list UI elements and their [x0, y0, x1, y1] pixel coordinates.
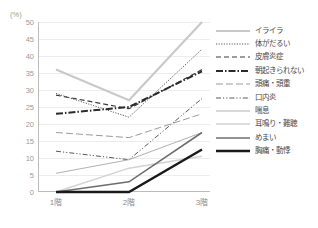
y-axis-tick-label: 50: [0, 18, 34, 27]
legend-label: 胸痛・動悸: [255, 146, 290, 156]
legend-label: 朝起きられない: [255, 66, 304, 76]
legend-label: 皮膚炎症: [255, 52, 283, 62]
series-line: [56, 49, 202, 117]
legend-label: 耳鳴り・難聴: [255, 119, 297, 129]
legend-label: 口内炎: [255, 93, 276, 103]
series-line: [56, 70, 202, 109]
y-axis-tick-label: 35: [0, 69, 34, 78]
legend-line-swatch: [216, 93, 250, 103]
x-axis-tick-label: 2階: [123, 196, 135, 207]
series-line: [56, 99, 202, 160]
legend-item[interactable]: 喘息: [216, 104, 316, 117]
legend-line-swatch: [216, 146, 250, 156]
legend-line-swatch: [216, 66, 250, 76]
legend-item[interactable]: イライラ: [216, 24, 316, 37]
x-axis-tick-label: 1階: [50, 196, 62, 207]
y-axis-tick-label: 40: [0, 52, 34, 61]
legend-item[interactable]: 頭痛・頭重: [216, 78, 316, 91]
legend-item[interactable]: 朝起きられない: [216, 64, 316, 77]
legend-line-swatch: [216, 52, 250, 62]
legend-item[interactable]: 体がだるい: [216, 37, 316, 50]
legend-item[interactable]: 口内炎: [216, 91, 316, 104]
y-axis-tick-label: 5: [0, 171, 34, 180]
y-axis-tick-label: 25: [0, 103, 34, 112]
chart-legend: イライラ体がだるい皮膚炎症朝起きられない頭痛・頭重口内炎喘息耳鳴り・難聴めまい胸…: [216, 24, 316, 158]
legend-item[interactable]: 皮膚炎症: [216, 51, 316, 64]
legend-label: 頭痛・頭重: [255, 79, 290, 89]
x-axis-tick-label: 3階: [196, 196, 208, 207]
legend-line-swatch: [216, 79, 250, 89]
y-axis-tick-label: 30: [0, 86, 34, 95]
legend-label: イライラ: [255, 26, 283, 36]
chart-lines: [38, 22, 210, 192]
chart-root: (%) 05101520253035404550 イライラ体がだるい皮膚炎症朝起…: [0, 0, 318, 228]
legend-line-swatch: [216, 133, 250, 143]
y-axis-tick-label: 10: [0, 154, 34, 163]
legend-item[interactable]: 耳鳴り・難聴: [216, 118, 316, 131]
y-axis-tick-label: 20: [0, 120, 34, 129]
legend-item[interactable]: 胸痛・動悸: [216, 145, 316, 158]
series-line: [56, 114, 202, 138]
legend-label: めまい: [255, 133, 276, 143]
legend-line-swatch: [216, 119, 250, 129]
legend-label: 体がだるい: [255, 39, 290, 49]
legend-label: 喘息: [255, 106, 269, 116]
y-axis-tick-label: 45: [0, 35, 34, 44]
y-axis-tick-label: 15: [0, 137, 34, 146]
series-line: [56, 133, 202, 174]
series-line: [56, 22, 202, 100]
legend-item[interactable]: めまい: [216, 131, 316, 144]
legend-line-swatch: [216, 39, 250, 49]
y-axis-tick-labels: 05101520253035404550: [0, 22, 34, 192]
legend-line-swatch: [216, 106, 250, 116]
series-line: [56, 150, 202, 193]
plot-area: [38, 22, 210, 192]
legend-line-swatch: [216, 26, 250, 36]
y-axis-tick-label: 0: [0, 188, 34, 197]
